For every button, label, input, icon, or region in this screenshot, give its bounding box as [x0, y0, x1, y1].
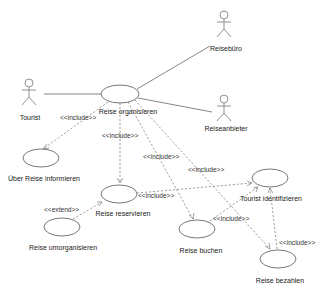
include-label-bezahlen: <<include>> [188, 166, 224, 173]
actor-label-reisebuero: Reisebüro [210, 45, 242, 52]
actor-tourist[interactable]: Tourist [20, 79, 41, 121]
use-case-label: Reise bezahlen [256, 277, 304, 284]
include-label-reservieren: <<include>> [102, 132, 138, 139]
actor-head-icon [25, 79, 33, 87]
actor-head-icon [220, 11, 228, 19]
include-label-reservieren-identifizieren: <<include>> [138, 192, 174, 199]
actor-label-reiseanbieter: Reiseanbieter [204, 125, 248, 132]
association-reisebuero-organisieren [137, 46, 210, 89]
use-case-tourist-identifizieren[interactable]: Tourist identifizieren [240, 169, 302, 202]
include-organisieren-reservieren [117, 103, 123, 183]
actor-reisebuero[interactable]: Reisebüro [210, 11, 242, 52]
use-case-reise-bezahlen[interactable]: Reise bezahlen [256, 250, 304, 284]
include-label-buchen-identifizieren: <<include>> [213, 215, 249, 222]
use-case-reise-organisieren[interactable]: Reise organisieren [99, 85, 157, 116]
include-label-bezahlen-identifizieren: <<include>> [279, 239, 315, 246]
use-case-label: Reise umorganisieren [29, 244, 97, 252]
include-organisieren-buchen [128, 102, 194, 219]
include-label-buchen: <<include>> [143, 153, 179, 160]
use-case-reise-umorganisieren[interactable]: Reise umorganisieren [29, 218, 97, 252]
actor-reiseanbieter[interactable]: Reiseanbieter [204, 95, 248, 132]
use-case-reise-reservieren[interactable]: Reise reservieren [96, 185, 151, 217]
use-case-label: Reise organisieren [99, 108, 157, 116]
use-case-ueber-reise-informieren[interactable]: Über Reise informieren [8, 149, 80, 182]
actor-head-icon [220, 95, 228, 103]
actor-label-tourist: Tourist [20, 114, 41, 121]
use-case-reise-buchen[interactable]: Reise buchen [179, 220, 223, 254]
extend-label-umorganisieren: <<extend>> [44, 206, 79, 213]
include-label-informieren: <<include>> [60, 114, 96, 121]
use-case-label: Reise reservieren [96, 210, 151, 217]
use-case-diagram: <<include>> <<include>> <<include>> <<in… [0, 0, 327, 291]
use-case-label: Über Reise informieren [8, 175, 80, 182]
use-case-label: Reise buchen [180, 247, 223, 254]
use-case-label: Tourist identifizieren [240, 195, 302, 202]
